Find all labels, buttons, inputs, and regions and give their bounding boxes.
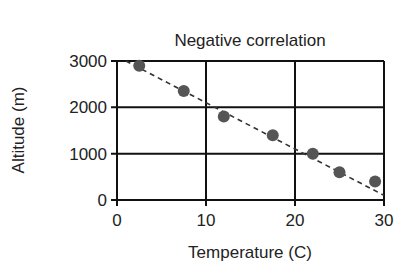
chart-title: Negative correlation <box>174 31 325 50</box>
y-tick-label: 2000 <box>69 98 107 117</box>
data-point <box>307 148 319 160</box>
y-tick-label: 3000 <box>69 52 107 71</box>
trend-line <box>126 61 384 195</box>
data-point <box>133 60 145 72</box>
data-point <box>218 111 230 123</box>
x-tick-label: 0 <box>112 211 121 230</box>
grid-lines <box>111 61 384 206</box>
data-point <box>267 129 279 141</box>
y-axis-label: Altitude (m) <box>9 87 28 174</box>
y-axis-ticks: 0100020003000 <box>69 52 107 210</box>
x-tick-label: 30 <box>375 211 394 230</box>
x-tick-label: 10 <box>197 211 216 230</box>
data-point <box>178 85 190 97</box>
y-tick-label: 1000 <box>69 145 107 164</box>
data-point <box>369 175 381 187</box>
x-axis-ticks: 0102030 <box>112 211 393 230</box>
scatter-chart: Negative correlation 0100020003000 01020… <box>0 0 409 278</box>
data-points <box>133 60 381 188</box>
x-tick-label: 20 <box>286 211 305 230</box>
data-point <box>334 166 346 178</box>
x-axis-label: Temperature (C) <box>188 243 312 262</box>
y-tick-label: 0 <box>98 191 107 210</box>
